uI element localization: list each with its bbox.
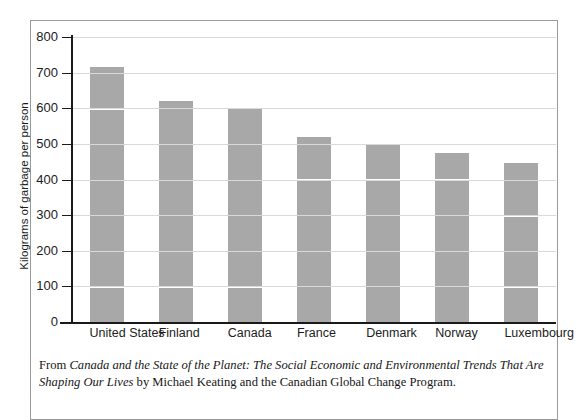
y-axis-tick-label: 600 xyxy=(18,101,58,114)
x-axis-category-labels: United StatesFinlandCanadaFranceDenmarkN… xyxy=(72,327,556,349)
y-axis-tick-label: 200 xyxy=(18,244,58,257)
bar xyxy=(159,101,193,322)
y-axis-tick xyxy=(62,286,71,287)
y-axis-tick-label: 700 xyxy=(18,66,58,79)
plot-area xyxy=(72,37,556,322)
y-axis-tick xyxy=(62,251,71,252)
y-axis-tick-label: 400 xyxy=(18,173,58,186)
gridline-over-bar xyxy=(72,251,556,252)
x-axis-category-label: Canada xyxy=(228,327,262,341)
gridline-over-bar xyxy=(72,37,556,38)
y-axis-tick xyxy=(62,73,71,74)
y-axis-tick-label: 500 xyxy=(18,137,58,150)
bar xyxy=(297,137,331,322)
bar xyxy=(90,67,124,322)
y-axis-tick xyxy=(62,37,71,38)
gridline-over-bar xyxy=(72,73,556,74)
gridline-over-bar xyxy=(72,144,556,145)
y-axis-tick xyxy=(62,108,71,109)
y-axis-line xyxy=(71,35,73,324)
gridline-over-bar xyxy=(72,215,556,216)
y-axis-tick xyxy=(62,322,71,323)
y-axis-tick-label: 300 xyxy=(18,208,58,221)
x-axis-line xyxy=(60,322,556,324)
x-axis-category-label: Luxembourg xyxy=(504,327,538,341)
y-axis-tick-label: 800 xyxy=(18,30,58,43)
gridline-over-bar xyxy=(72,286,556,287)
y-axis-tick xyxy=(62,144,71,145)
x-axis-category-label: United States xyxy=(90,327,124,341)
x-axis-category-label: Norway xyxy=(435,327,469,341)
x-axis-category-label: France xyxy=(297,327,331,341)
figure-caption: From Canada and the State of the Planet:… xyxy=(39,357,551,391)
x-axis-category-label: Finland xyxy=(159,327,193,341)
y-axis-tick-label: 0 xyxy=(18,315,58,328)
y-axis-tick-label: 100 xyxy=(18,279,58,292)
gridline-over-bar xyxy=(72,180,556,181)
y-axis-tick xyxy=(62,215,71,216)
bar xyxy=(366,144,400,322)
caption-trail: by Michael Keating and the Canadian Glob… xyxy=(133,375,455,389)
caption-lead: From xyxy=(39,358,69,372)
x-axis-category-label: Denmark xyxy=(366,327,400,341)
bar xyxy=(504,163,538,322)
y-axis-title: Kilograms of garbage per person xyxy=(18,56,30,316)
y-axis-tick xyxy=(62,180,71,181)
gridline-over-bar xyxy=(72,108,556,109)
bar xyxy=(435,153,469,322)
